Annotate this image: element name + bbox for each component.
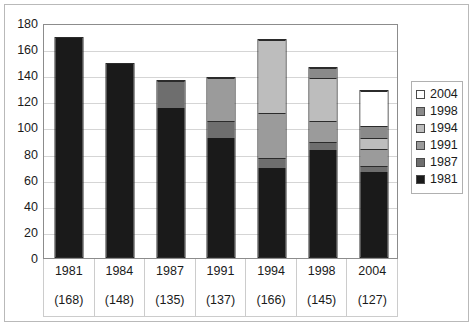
stacked-bar[interactable]	[55, 37, 84, 258]
x-axis-year-label: 1981	[55, 265, 83, 278]
bar-segment[interactable]	[107, 64, 134, 257]
x-axis-category: 1994(166)	[246, 259, 297, 316]
x-axis-total-label: (166)	[257, 294, 286, 307]
bar-segment[interactable]	[360, 91, 387, 126]
bar-segment[interactable]	[56, 38, 83, 257]
x-axis-total-label: (137)	[206, 294, 235, 307]
bar-segment[interactable]	[259, 168, 286, 257]
x-axis-category: 1987(135)	[145, 259, 196, 316]
x-axis-total-label: (127)	[358, 294, 387, 307]
legend-item[interactable]: 1991	[416, 137, 459, 154]
x-axis-year-label: 2004	[358, 265, 386, 278]
legend-swatch-icon	[416, 107, 425, 116]
bar-segment[interactable]	[259, 113, 286, 157]
legend-label: 1994	[430, 122, 458, 135]
y-axis-tick-label: 100	[2, 122, 38, 135]
bar-group[interactable]	[95, 25, 146, 258]
bar-segment[interactable]	[259, 158, 286, 168]
x-axis-year-label: 1987	[156, 265, 184, 278]
bar-segment[interactable]	[157, 81, 184, 108]
plot-area	[43, 24, 398, 259]
chart-container: 180160140120100806040200 1981(168)1984(1…	[0, 0, 473, 326]
y-axis-tick-label: 40	[2, 201, 38, 214]
legend: 200419981994199119871981	[411, 81, 463, 194]
bar-segment[interactable]	[309, 121, 336, 142]
stacked-bar[interactable]	[308, 67, 337, 258]
bar-group[interactable]	[298, 25, 349, 258]
y-axis-tick-label: 120	[2, 96, 38, 109]
bar-group[interactable]	[44, 25, 95, 258]
legend-item[interactable]: 2004	[416, 86, 459, 103]
bar-segment[interactable]	[360, 126, 387, 138]
y-axis-tick-label: 180	[2, 18, 38, 31]
stacked-bar[interactable]	[359, 90, 388, 258]
y-axis: 180160140120100806040200	[0, 24, 38, 259]
legend-swatch-icon	[416, 175, 425, 184]
bar-segment[interactable]	[208, 138, 235, 257]
x-axis-category: 1998(145)	[297, 259, 348, 316]
bar-group[interactable]	[196, 25, 247, 258]
bar-segment[interactable]	[360, 172, 387, 257]
legend-item[interactable]: 1998	[416, 103, 459, 120]
x-axis-category: 1984(148)	[95, 259, 146, 316]
y-axis-tick-label: 0	[2, 253, 38, 266]
bars-layer	[44, 25, 397, 258]
legend-item[interactable]: 1994	[416, 120, 459, 137]
legend-swatch-icon	[416, 124, 425, 133]
x-axis-category: 1991(137)	[196, 259, 247, 316]
y-axis-tick-label: 140	[2, 70, 38, 83]
bar-segment[interactable]	[360, 138, 387, 148]
bar-segment[interactable]	[309, 78, 336, 121]
bar-group[interactable]	[247, 25, 298, 258]
bar-segment[interactable]	[157, 108, 184, 257]
x-axis-year-label: 1991	[207, 265, 235, 278]
y-axis-tick-label: 160	[2, 44, 38, 57]
legend-label: 1998	[430, 105, 458, 118]
x-axis-total-label: (168)	[54, 294, 83, 307]
x-axis-total-label: (145)	[307, 294, 336, 307]
bar-group[interactable]	[348, 25, 399, 258]
legend-label: 2004	[430, 88, 458, 101]
x-axis-category: 2004(127)	[347, 259, 397, 316]
y-axis-tick-label: 80	[2, 148, 38, 161]
legend-swatch-icon	[416, 141, 425, 150]
bar-group[interactable]	[145, 25, 196, 258]
stacked-bar[interactable]	[156, 80, 185, 258]
x-axis-year-label: 1994	[257, 265, 285, 278]
bar-segment[interactable]	[309, 142, 336, 150]
bar-segment[interactable]	[259, 40, 286, 113]
legend-label: 1987	[430, 156, 458, 169]
legend-swatch-icon	[416, 158, 425, 167]
bar-segment[interactable]	[360, 149, 387, 166]
stacked-bar[interactable]	[106, 63, 135, 258]
x-axis-year-label: 1998	[308, 265, 336, 278]
stacked-bar[interactable]	[258, 39, 287, 258]
bar-segment[interactable]	[208, 121, 235, 138]
bar-segment[interactable]	[309, 68, 336, 78]
legend-item[interactable]: 1987	[416, 154, 459, 171]
y-axis-tick-label: 20	[2, 227, 38, 240]
bar-segment[interactable]	[208, 78, 235, 121]
stacked-bar[interactable]	[207, 77, 236, 258]
legend-label: 1991	[430, 139, 458, 152]
legend-item[interactable]: 1981	[416, 171, 459, 188]
x-axis-total-label: (135)	[155, 294, 184, 307]
x-axis-total-label: (148)	[105, 294, 134, 307]
bar-segment[interactable]	[309, 150, 336, 257]
y-axis-tick-label: 60	[2, 174, 38, 187]
legend-swatch-icon	[416, 90, 425, 99]
legend-label: 1981	[430, 173, 458, 186]
x-axis-year-label: 1984	[105, 265, 133, 278]
x-axis: 1981(168)1984(148)1987(135)1991(137)1994…	[43, 259, 398, 317]
x-axis-category: 1981(168)	[44, 259, 95, 316]
